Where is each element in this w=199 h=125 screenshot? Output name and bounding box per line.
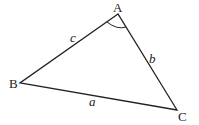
vertex-label-c: C [178, 109, 187, 124]
side-label-b: b [149, 51, 156, 66]
vertex-label-a: A [113, 0, 123, 15]
side-label-c: c [70, 30, 76, 45]
vertex-label-b: B [9, 76, 18, 91]
side-label-a: a [89, 94, 96, 109]
triangle-diagram: A B C c b a [0, 0, 199, 125]
